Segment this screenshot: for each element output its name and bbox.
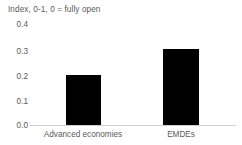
- y-tick-label-0.3: 0.3: [0, 47, 28, 56]
- category-label-emdes: EMDEs: [167, 130, 195, 140]
- bar-emdes: [163, 49, 199, 125]
- x-axis-line: [30, 125, 236, 126]
- category-label-advanced-economies: Advanced economies: [44, 130, 122, 140]
- y-tick-label-0.2: 0.2: [0, 72, 28, 81]
- y-tick-label-0.4: 0.4: [0, 20, 28, 29]
- bars-layer: [30, 24, 236, 125]
- y-axis: 0.4 0.3 0.2 0.1 0.0: [0, 0, 28, 145]
- bar-advanced-economies: [66, 75, 101, 126]
- y-tick-label-0.0: 0.0: [0, 121, 28, 130]
- y-tick-label-0.1: 0.1: [0, 97, 28, 106]
- bar-chart: Index, 0-1, 0 = fully open 0.4 0.3 0.2 0…: [0, 0, 242, 145]
